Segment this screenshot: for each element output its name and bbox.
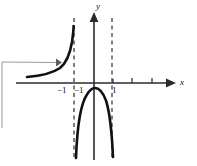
graph-figure: y x −1 −1 1: [0, 0, 197, 166]
y-axis-label: y: [96, 2, 100, 11]
tick-label-neg1-outer: −1: [57, 86, 67, 95]
y-axis: [90, 12, 99, 160]
tick-label-neg1-inner: −1: [74, 86, 84, 95]
tick-label-pos1: 1: [112, 86, 117, 95]
x-axis-label: x: [180, 78, 184, 87]
curve-left-branch: [27, 26, 74, 77]
leader-arrow: [2, 59, 62, 129]
plot-canvas: [0, 0, 197, 166]
